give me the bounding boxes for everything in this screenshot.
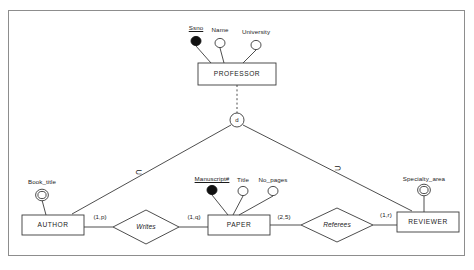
- attr-oval-specialty-area-inner: [420, 186, 428, 193]
- attr-oval-name[interactable]: [215, 38, 225, 47]
- subset-symbol-right-icon: ⊃: [334, 163, 342, 173]
- attr-line-name: [220, 48, 224, 63]
- entity-label-paper: PAPER: [227, 221, 252, 228]
- entity-label-author: AUTHOR: [37, 221, 68, 228]
- entity-label-reviewer: REVIEWER: [408, 218, 448, 225]
- er-diagram-canvas: PROFESSOR AUTHOR PAPER REVIEWER Writes R…: [0, 0, 474, 270]
- cardinality-label-writes-paper: (1,q): [187, 213, 200, 220]
- attribute-label-book-title: Book_title: [28, 178, 56, 185]
- attr-line-university: [243, 50, 256, 63]
- attr-oval-no-pages[interactable]: [268, 186, 278, 195]
- attr-line-book-title: [42, 200, 46, 215]
- attr-line-no-pages: [239, 196, 273, 215]
- subset-symbol-left-icon: ⊂: [135, 167, 143, 177]
- attribute-label-manuscript-no: Manuscript#: [195, 175, 230, 182]
- attribute-label-name: Name: [212, 26, 229, 33]
- attr-oval-ssno[interactable]: [191, 36, 201, 45]
- attribute-label-ssno: Ssno: [189, 24, 204, 31]
- entity-label-professor: PROFESSOR: [214, 70, 260, 77]
- attr-oval-title[interactable]: [238, 186, 248, 195]
- diagram-vector-layer: [0, 0, 474, 270]
- attr-line-manuscript: [212, 195, 228, 215]
- cardinality-label-author-writes: (1,p): [93, 213, 106, 220]
- attr-oval-university[interactable]: [251, 40, 261, 49]
- cardinality-label-referees-reviewer: (1,r): [380, 211, 392, 218]
- relationship-label-referees: Referees: [323, 221, 351, 228]
- attr-oval-manuscript-no[interactable]: [207, 185, 217, 194]
- attribute-label-university: University: [242, 28, 270, 35]
- attribute-label-specialty-area: Specialty_area: [403, 175, 445, 182]
- specialization-symbol-disjoint: d: [235, 117, 238, 123]
- relationship-label-writes: Writes: [136, 223, 155, 230]
- attribute-label-title: Title: [237, 176, 249, 183]
- inheritance-line-author: [72, 125, 231, 214]
- attribute-label-no-pages: No_pages: [258, 176, 287, 183]
- attr-oval-book-title-inner: [38, 191, 46, 198]
- attr-line-ssno: [196, 46, 211, 63]
- attr-line-title: [233, 196, 243, 215]
- cardinality-label-paper-referees: (2,5): [277, 213, 290, 220]
